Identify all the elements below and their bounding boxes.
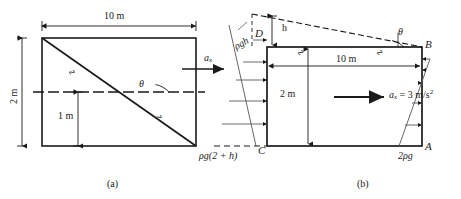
panel-a-geometry: [17, 21, 224, 146]
panel-b-pressure-bottom-left-label: ρg(2 + h): [199, 150, 237, 161]
figure-container: 10 m 2 m 1 m θ ax ∿ ∿ (a) h D C B A 10 m…: [0, 0, 461, 199]
panel-b-pressure-right-label: 2ρg: [398, 150, 413, 161]
panel-b-acceleration-label: ax = 3 m/s2: [389, 88, 433, 101]
panel-b-accel-value: = 3 m/s: [397, 89, 430, 100]
panel-b-accel-exponent: 2: [430, 88, 434, 96]
panel-a-length-label: 10 m: [104, 10, 124, 21]
panel-a-accel-subscript: x: [209, 56, 212, 64]
panel-b-height-label: 2 m: [280, 88, 295, 99]
panel-b-surface-rise-label: h: [282, 22, 287, 33]
panel-b-corner-C-label: C: [258, 144, 265, 156]
panel-a-acceleration-label: ax: [204, 52, 212, 64]
panel-a-height-label: 2 m: [8, 89, 19, 104]
panel-a-mid-height-label: 1 m: [58, 110, 73, 121]
panel-a-theta-label: θ: [139, 78, 144, 89]
panel-b-caption: (b): [357, 178, 369, 189]
panel-b-length-label: 10 m: [336, 53, 356, 64]
panel-b-corner-B-label: B: [425, 38, 432, 50]
panel-a-caption: (a): [107, 178, 118, 189]
panel-b-theta-label: θ: [398, 26, 403, 37]
panel-b-corner-A-label: A: [425, 140, 432, 152]
panel-b-corner-D-label: D: [255, 27, 263, 39]
